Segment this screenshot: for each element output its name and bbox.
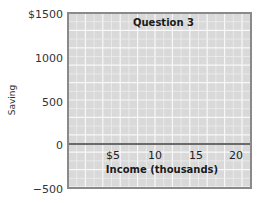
x-tick-label: 20: [229, 149, 243, 162]
y-tick-label: $1500: [28, 8, 63, 21]
y-axis-label: Saving: [7, 85, 17, 115]
x-tick-label: 15: [189, 149, 203, 162]
y-tick-label: −500: [33, 183, 63, 196]
chart-title: Question 3: [133, 17, 194, 28]
y-tick-label: 1000: [35, 52, 63, 65]
x-tick-label: $5: [106, 149, 120, 162]
y-tick-label: 0: [56, 139, 63, 152]
x-axis-label: Income (thousands): [106, 164, 218, 175]
x-tick-label: 10: [148, 149, 162, 162]
chart: Question 3 $1500 1000 500 0 −500 $5 10 1…: [0, 0, 262, 203]
y-tick-label: 500: [42, 96, 63, 109]
